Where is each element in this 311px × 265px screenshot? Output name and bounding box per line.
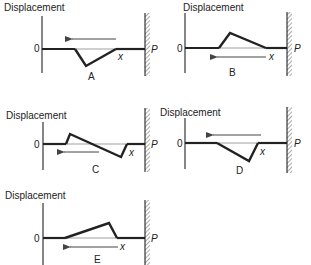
position-label: x <box>117 51 124 62</box>
panel-c: Displacement 0 x P C <box>6 108 158 175</box>
position-label: x <box>128 147 135 158</box>
wall <box>287 12 292 76</box>
axis-label: Displacement <box>5 190 66 201</box>
pulse-peak <box>219 33 266 48</box>
pulse-trough <box>217 143 258 161</box>
end-label: P <box>294 43 301 54</box>
panel-label: E <box>94 254 101 265</box>
position-label: x <box>259 146 266 157</box>
zero-label: 0 <box>177 43 183 54</box>
panel-a: Displacement 0 x P A <box>4 2 158 82</box>
axis-label: Displacement <box>4 2 65 13</box>
panel-label: D <box>236 165 243 176</box>
panel-label: A <box>88 71 95 82</box>
axis-label: Displacement <box>160 107 221 118</box>
zero-label: 0 <box>34 43 40 54</box>
end-label: P <box>151 139 158 150</box>
panel-label: B <box>229 67 236 78</box>
position-label: x <box>119 241 126 252</box>
zero-label: 0 <box>34 139 40 150</box>
end-label: P <box>294 138 301 149</box>
end-label: P <box>151 44 158 55</box>
wall <box>287 107 292 173</box>
panel-e: Displacement 0 x P E <box>5 190 158 265</box>
wall <box>145 108 150 172</box>
axis-label: Displacement <box>6 110 67 121</box>
pulse-peak <box>65 223 117 238</box>
position-label: x <box>268 51 275 62</box>
pulse-trough <box>75 49 116 66</box>
panel-d: Displacement 0 x P D <box>160 107 301 176</box>
pulse-peak-and-trough <box>66 134 127 157</box>
zero-label: 0 <box>34 233 40 244</box>
panel-b: Displacement 0 x P B <box>177 2 301 78</box>
axis-label: Displacement <box>183 2 244 13</box>
end-label: P <box>151 233 158 244</box>
zero-label: 0 <box>177 138 183 149</box>
panel-label: C <box>92 164 99 175</box>
wave-reflection-diagram: Displacement 0 x P A Displacement 0 x P … <box>0 0 311 265</box>
wall <box>145 200 150 265</box>
wall <box>145 13 150 76</box>
